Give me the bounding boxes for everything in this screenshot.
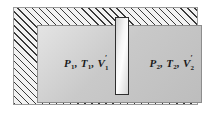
chamber-2-volume-subscript: 2 (190, 64, 194, 72)
chamber-1-volume-group: V′1 (97, 57, 105, 69)
thermodynamics-vessel-figure: P1, T1, V′1 P2, T2, V′2 (0, 0, 211, 118)
chamber-2-state-label: P2, T2, V′2 (150, 57, 191, 71)
chamber-2-volume-prime: ′ (190, 54, 192, 63)
chamber-1-temperature-symbol: T (81, 57, 88, 69)
chamber-2-region: P2, T2, V′2 (139, 26, 201, 102)
chamber-1-state-label: P1, T1, V′1 (64, 57, 105, 71)
chamber-2-volume-symbol: V (183, 57, 191, 69)
chamber-1-volume-prime: ′ (105, 54, 107, 63)
chamber-2-volume-group: V′2 (183, 57, 191, 69)
chamber-2-pressure-symbol: P (150, 57, 157, 69)
chamber-1-volume-subscript: 1 (105, 64, 109, 72)
partition-plate (115, 17, 129, 95)
chamber-1-volume-symbol: V (97, 57, 105, 69)
chamber-1-pressure-symbol: P (64, 57, 71, 69)
insulated-hatched-wall: P1, T1, V′1 P2, T2, V′2 (13, 7, 198, 105)
